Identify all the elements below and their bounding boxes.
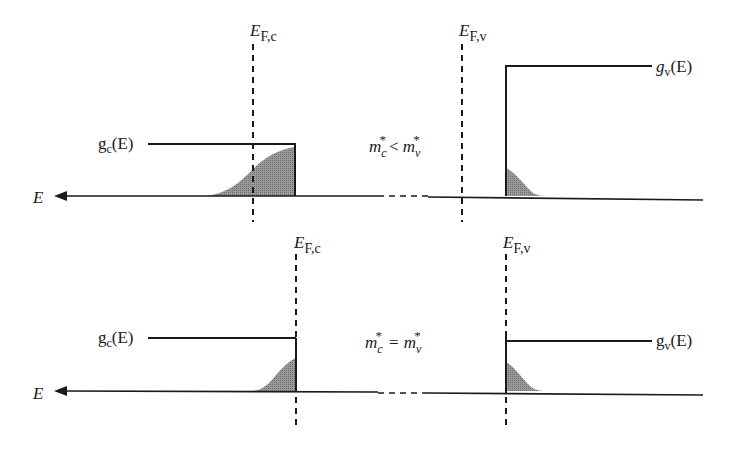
gv-label: gv(E) <box>656 57 692 79</box>
occupied-states-fill-c <box>207 147 295 196</box>
fermi-level-v-label: EF,v <box>458 21 487 44</box>
density-of-states-diagram: E EF,c EF,v gc(E) gv(E) mc*<mv* E EF,c E… <box>0 0 739 452</box>
effective-mass-condition: mc*=mv* <box>365 328 422 356</box>
occupied-states-fill-v <box>506 168 548 196</box>
diagram-svg: E EF,c EF,v gc(E) gv(E) mc*<mv* E EF,c E… <box>0 0 739 452</box>
occupied-states-fill-v <box>506 362 546 391</box>
energy-axis-label: E <box>32 188 44 207</box>
fermi-level-v-label: EF,v <box>502 233 531 256</box>
gc-label: gc(E) <box>98 328 134 350</box>
energy-axis-label: E <box>32 384 44 403</box>
gv-label: gv(E) <box>656 331 692 353</box>
effective-mass-condition: mc*<mv* <box>369 132 421 160</box>
bottom-panel: E EF,c EF,v gc(E) gv(E) mc*=mv* <box>32 233 703 430</box>
occupied-states-fill-c <box>253 358 296 391</box>
energy-axis-right <box>428 393 703 395</box>
gc-label: gc(E) <box>98 134 134 156</box>
energy-axis-arrowhead <box>54 191 67 201</box>
fermi-level-c-label: EF,c <box>249 21 277 44</box>
top-panel: E EF,c EF,v gc(E) gv(E) mc*<mv* <box>32 21 703 222</box>
energy-axis-arrowhead <box>54 386 67 396</box>
energy-axis-right <box>428 197 703 200</box>
gv-density-curve <box>506 66 652 196</box>
fermi-level-c-label: EF,c <box>293 233 321 256</box>
energy-axis-left <box>62 391 378 392</box>
